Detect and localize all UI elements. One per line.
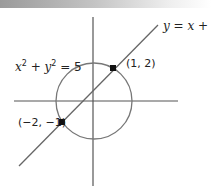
point-b-label: (−2, −1)	[18, 116, 66, 129]
intersection-point-1-2	[110, 65, 116, 71]
point-a-label: (1, 2)	[126, 57, 156, 70]
line-y-equals-x-plus-1	[19, 25, 158, 166]
line-label: y = x + 1	[162, 19, 211, 33]
circle-label: x2 + y2 = 5	[15, 59, 82, 74]
graph: y = x + 1 x2 + y2 = 5 (1, 2) (−2, −1)	[0, 0, 211, 187]
